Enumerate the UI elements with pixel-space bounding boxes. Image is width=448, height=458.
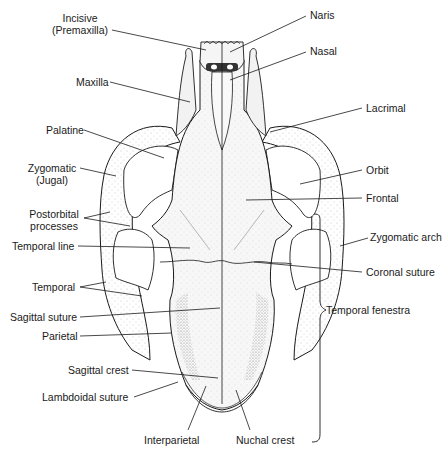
- label-interparietal: Interparietal: [144, 434, 199, 446]
- label-zygomatic-jugal: Zygomatic (Jugal): [22, 162, 82, 186]
- label-frontal: Frontal: [366, 192, 399, 204]
- label-lambdoidal-suture: Lambdoidal suture: [42, 391, 128, 403]
- label-temporal-fenestra: Temporal fenestra: [326, 304, 410, 316]
- skull-diagram: Incisive Incisive (Premaxilla) Maxilla P…: [0, 0, 448, 458]
- label-temporal: Temporal: [32, 281, 75, 293]
- label-incisive-text: Incisive (Premaxilla): [40, 12, 120, 36]
- label-sagittal-suture: Sagittal suture: [10, 311, 77, 323]
- label-temporal-line: Temporal line: [12, 240, 74, 252]
- label-palatine: Palatine: [46, 124, 84, 136]
- label-lacrimal: Lacrimal: [366, 102, 406, 114]
- label-coronal-suture: Coronal suture: [366, 266, 435, 278]
- label-nasal: Nasal: [310, 45, 337, 57]
- label-orbit: Orbit: [366, 164, 389, 176]
- label-nuchal-crest: Nuchal crest: [236, 434, 294, 446]
- label-parietal: Parietal: [42, 330, 78, 342]
- label-naris: Naris: [310, 9, 335, 21]
- label-sagittal-crest: Sagittal crest: [68, 364, 129, 376]
- label-zygomatic-arch: Zygomatic arch: [370, 231, 442, 243]
- label-maxilla: Maxilla: [76, 76, 109, 88]
- label-postorbital-processes: Postorbital processes: [22, 208, 86, 232]
